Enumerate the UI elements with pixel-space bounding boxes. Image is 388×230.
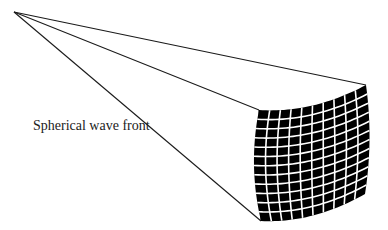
ray-to-top-right <box>14 12 366 85</box>
ray-to-top-left <box>14 12 259 110</box>
spherical-wave-diagram <box>0 0 388 230</box>
ray-to-bottom-left <box>14 12 261 221</box>
wavefront-grid <box>254 85 370 221</box>
wavefront-label: Spherical wave front <box>33 118 150 134</box>
